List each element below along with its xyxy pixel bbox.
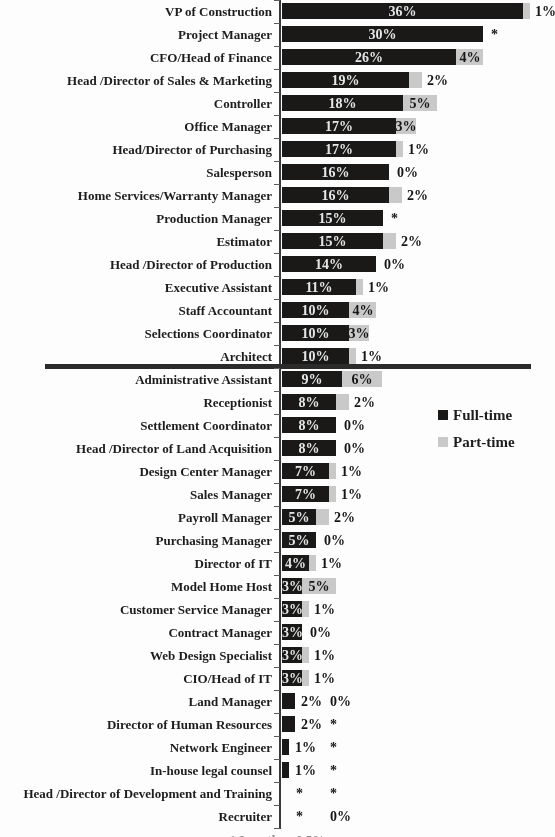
category-label: In-house legal counsel [0, 759, 272, 782]
axis-tick [274, 299, 280, 300]
category-label: Head /Director of Development and Traini… [0, 782, 272, 805]
part-time-bar [302, 601, 309, 617]
category-label: Head /Director of Sales & Marketing [0, 69, 272, 92]
category-label: Staff Accountant [0, 299, 272, 322]
axis-tick [274, 322, 280, 323]
axis-tick [274, 552, 280, 553]
full-time-value-label: 19% [282, 69, 409, 92]
category-label: CIO/Head of IT [0, 667, 272, 690]
part-time-value-label: 2% [354, 391, 375, 414]
axis-tick [274, 828, 280, 829]
bar-row: Home Services/Warranty Manager 16% 2% [0, 184, 555, 207]
part-time-value-label: * [330, 736, 337, 759]
category-label: Payroll Manager [0, 506, 272, 529]
bar-row: Sales Manager 7% 1% [0, 483, 555, 506]
category-label: Estimator [0, 230, 272, 253]
part-time-bar [329, 486, 336, 502]
category-label: Design Center Manager [0, 460, 272, 483]
part-time-value-label: 0% [384, 253, 405, 276]
axis-tick [274, 23, 280, 24]
axis-tick [274, 46, 280, 47]
full-time-value-label: 3% [282, 621, 302, 644]
full-time-value-label: 7% [282, 460, 329, 483]
part-time-value-label: * [330, 713, 337, 736]
part-time-value-label: 0% [344, 414, 365, 437]
part-time-bar [396, 141, 403, 157]
part-time-value-label: 4% [457, 46, 483, 69]
full-time-value-label: 30% [282, 23, 483, 46]
bar-row: Administrative Assistant 9% 6% [0, 368, 555, 391]
category-label: Administrative Assistant [0, 368, 272, 391]
part-time-value-label: 1% [314, 598, 335, 621]
full-time-value-label: 2% [301, 713, 322, 736]
axis-tick [274, 460, 280, 461]
category-label: Production Manager [0, 207, 272, 230]
part-time-bar [336, 394, 349, 410]
category-label: Model Home Host [0, 575, 272, 598]
part-time-value-label: 1% [368, 276, 389, 299]
axis-tick [274, 184, 280, 185]
bar-row: Executive Assistant 11% 1% [0, 276, 555, 299]
category-label: Executive Assistant [0, 276, 272, 299]
category-label: Head /Director of Land Acquisition [0, 437, 272, 460]
part-time-value-label: 4% [350, 299, 376, 322]
axis-tick [274, 161, 280, 162]
category-label: Contract Manager [0, 621, 272, 644]
part-time-bar [302, 670, 309, 686]
part-time-bar [389, 187, 402, 203]
part-time-bar [329, 463, 336, 479]
full-time-value-label: 3% [282, 667, 302, 690]
axis-tick [274, 506, 280, 507]
bar-row: Contract Manager 3% 0% [0, 621, 555, 644]
part-time-value-label: 2% [334, 506, 355, 529]
category-label: Head /Director of Production [0, 253, 272, 276]
full-time-value-label: * [296, 782, 303, 805]
full-time-value-label: 16% [282, 161, 389, 184]
category-label: Settlement Coordinator [0, 414, 272, 437]
axis-tick [274, 115, 280, 116]
full-time-bar [282, 739, 289, 755]
bar-row: VP of Construction 36% 1% [0, 0, 555, 23]
full-time-value-label: 2% [301, 690, 322, 713]
bar-row: Head /Director of Development and Traini… [0, 782, 555, 805]
footnote-clipped: * Less than 0.5% [0, 830, 555, 837]
part-time-swatch-icon [438, 437, 448, 447]
axis-tick [274, 0, 280, 1]
part-time-value-label: 0% [330, 690, 351, 713]
axis-tick [274, 713, 280, 714]
axis-tick [274, 276, 280, 277]
full-time-value-label: 1% [295, 759, 316, 782]
part-time-value-label: 0% [330, 805, 351, 828]
full-time-value-label: 17% [282, 138, 396, 161]
part-time-bar [349, 348, 356, 364]
part-time-value-label: 1% [321, 552, 342, 575]
axis-tick [274, 805, 280, 806]
axis-tick [274, 92, 280, 93]
part-time-value-label: 2% [401, 230, 422, 253]
axis-tick [274, 759, 280, 760]
part-time-value-label: 1% [314, 667, 335, 690]
category-label: Selections Coordinator [0, 322, 272, 345]
bar-row: Recruiter * 0% [0, 805, 555, 828]
bar-row: Project Manager 30% * [0, 23, 555, 46]
bar-row: Head/Director of Purchasing 17% 1% [0, 138, 555, 161]
chart-container: VP of Construction 36% 1% Project Manage… [0, 0, 555, 837]
part-time-bar [309, 555, 316, 571]
full-time-value-label: 18% [282, 92, 403, 115]
part-time-value-label: 1% [341, 460, 362, 483]
category-label: Receptionist [0, 391, 272, 414]
axis-tick [274, 667, 280, 668]
part-time-bar [383, 233, 396, 249]
bar-row: Design Center Manager 7% 1% [0, 460, 555, 483]
full-time-value-label: 15% [282, 230, 383, 253]
part-time-value-label: 6% [349, 368, 375, 391]
category-label: Project Manager [0, 23, 272, 46]
full-time-value-label: 14% [282, 253, 376, 276]
axis-tick [274, 575, 280, 576]
full-time-bar [282, 693, 295, 709]
axis-tick [274, 253, 280, 254]
part-time-bar [302, 647, 309, 663]
bar-row: Payroll Manager 5% 2% [0, 506, 555, 529]
bar-row: Estimator 15% 2% [0, 230, 555, 253]
category-label: Director of IT [0, 552, 272, 575]
